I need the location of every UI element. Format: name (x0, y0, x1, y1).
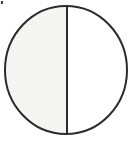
scan-speck-artifact (1, 1, 3, 4)
figure-canvas (0, 0, 133, 141)
circle-diagram-svg (0, 0, 133, 141)
